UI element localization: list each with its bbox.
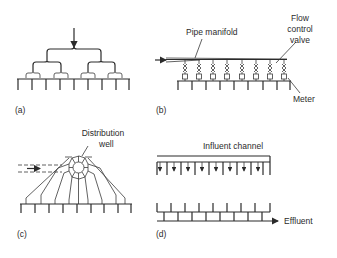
panel-label-d: (d) (156, 229, 167, 239)
flow-control-valve-label-line1: Flow (291, 13, 310, 23)
effluent-label: Effluent (284, 216, 313, 226)
meter-label: Meter (293, 94, 315, 104)
panel-b-manifold (155, 39, 300, 93)
pipe-manifold-label: Pipe manifold (186, 27, 238, 37)
panel-a-splitter (17, 28, 130, 90)
panel-label-a: (a) (15, 105, 26, 115)
flow-distribution-diagram: (a) (0, 0, 337, 258)
panel-c-distribution-well (18, 146, 132, 213)
flow-control-valve-label-line3: valve (290, 35, 310, 45)
influent-outlets (160, 162, 263, 175)
panel-a-outlets (18, 79, 129, 90)
panel-b-outlets (178, 81, 290, 90)
panel-label-b: (b) (156, 105, 167, 115)
panel-c-outlets (21, 204, 131, 213)
panel-d-channels (157, 156, 278, 221)
flow-control-valve-label-line2: control (287, 24, 313, 34)
distribution-well-label-line1: Distribution (82, 128, 125, 138)
panel-label-c: (c) (17, 229, 27, 239)
distribution-well-label-line2: well (98, 139, 114, 149)
valve-meter-units (183, 60, 287, 81)
influent-channel-label: Influent channel (203, 141, 263, 151)
